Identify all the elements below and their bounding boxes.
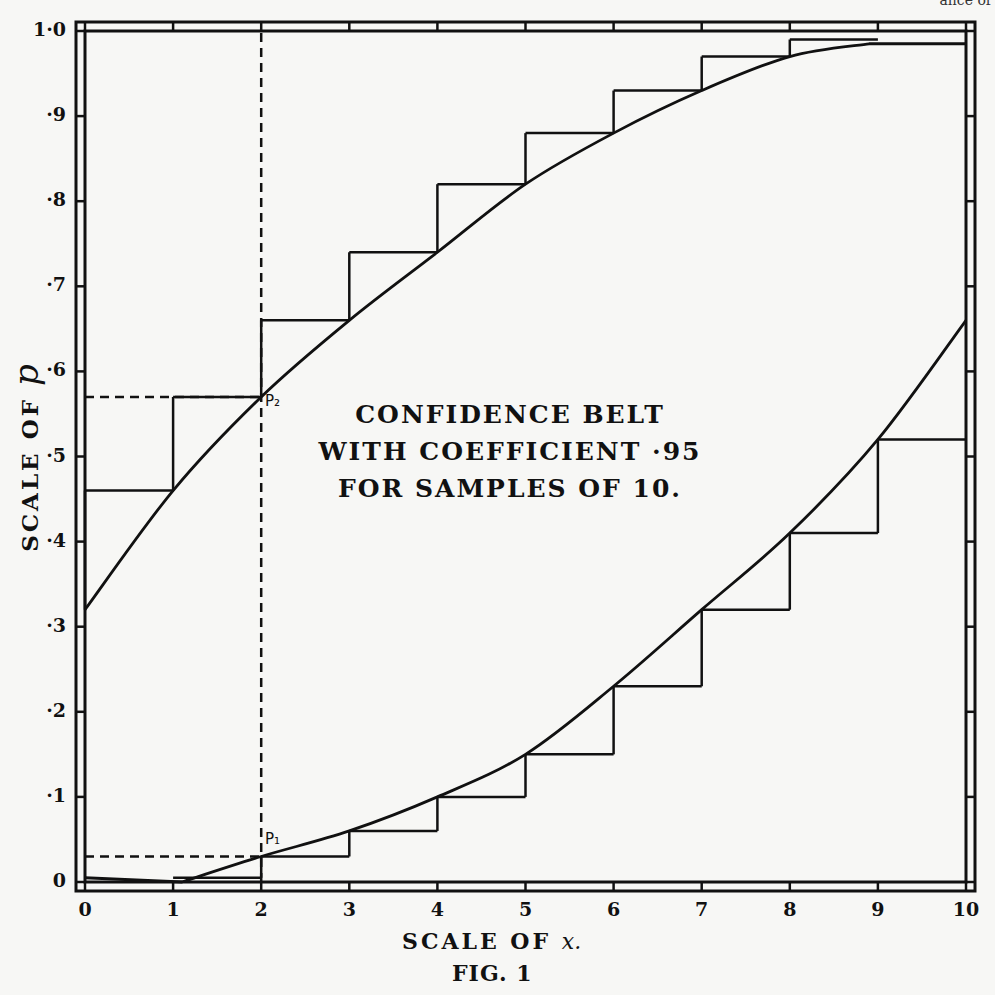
- x-tick-label: 4: [417, 898, 457, 920]
- y-tick-label: 0: [6, 869, 66, 891]
- y-tick-label: ·8: [6, 188, 66, 210]
- plot-title-line-1: CONFIDENCE BELT: [300, 400, 720, 429]
- y-tick-label: ·7: [6, 273, 66, 295]
- point-label-p2: P₂: [265, 392, 280, 410]
- plot-title-line-3: FOR SAMPLES OF 10.: [300, 474, 720, 503]
- x-tick-label: 0: [65, 898, 105, 920]
- plot-title-line-2: WITH COEFFICIENT ·95: [300, 437, 720, 466]
- x-tick-label: 1: [153, 898, 193, 920]
- x-axis-title: SCALE OF x.: [402, 928, 581, 954]
- x-tick-label: 2: [241, 898, 281, 920]
- x-tick-label: 8: [770, 898, 810, 920]
- y-axis-title-text: SCALE OF: [16, 397, 43, 552]
- point-label-p1: P₁: [265, 830, 280, 848]
- x-tick-label: 7: [682, 898, 722, 920]
- figure-caption: FIG. 1: [452, 960, 533, 986]
- x-tick-label: 10: [946, 898, 986, 920]
- x-axis-variable: x.: [562, 929, 581, 954]
- y-tick-label: ·1: [6, 784, 66, 806]
- y-tick-label: 1·0: [6, 18, 66, 40]
- x-tick-label: 3: [329, 898, 369, 920]
- y-axis-variable: p: [6, 364, 46, 386]
- upper-limit-curve: [85, 44, 966, 610]
- x-tick-label: 9: [858, 898, 898, 920]
- y-tick-label: ·3: [6, 614, 66, 636]
- y-axis-title: SCALE OF p: [6, 364, 46, 552]
- y-tick-label: ·2: [6, 699, 66, 721]
- x-tick-label: 5: [506, 898, 546, 920]
- x-axis-title-text: SCALE OF: [402, 928, 551, 954]
- x-tick-label: 6: [594, 898, 634, 920]
- y-tick-label: ·9: [6, 103, 66, 125]
